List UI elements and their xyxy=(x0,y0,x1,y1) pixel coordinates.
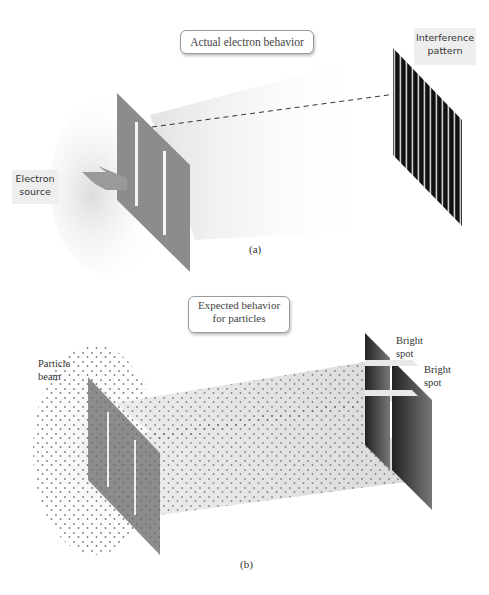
bright-spot-2-line2: spot xyxy=(424,376,451,389)
panel-b-title-line2: for particles xyxy=(189,312,289,325)
bright-spot-1-line1: Bright xyxy=(396,334,423,347)
bright-spot-label-2: Bright spot xyxy=(424,363,451,389)
bright-spot-1-line2: spot xyxy=(396,347,423,360)
panel-a-caption: (a) xyxy=(249,243,261,255)
electron-source-label-line1: Electron xyxy=(12,172,58,185)
particle-beam-label: Particle beam xyxy=(38,357,70,383)
bright-spot-band-1 xyxy=(365,360,418,366)
particle-beam-label-line1: Particle xyxy=(38,357,70,370)
panel-a-diagram xyxy=(50,48,462,275)
slit-b-2 xyxy=(134,440,136,515)
slit-1 xyxy=(135,122,138,206)
slit-2 xyxy=(163,151,166,235)
bright-spot-band-2 xyxy=(365,390,418,396)
interference-label-line1: Interference xyxy=(414,31,476,44)
interference-label-line2: pattern xyxy=(414,44,476,57)
electron-source-label: Electron source xyxy=(12,170,58,204)
interference-pattern-label: Interference pattern xyxy=(414,28,476,65)
panel-b-caption: (b) xyxy=(240,558,253,570)
particle-beam-label-line2: beam xyxy=(38,370,70,383)
bright-spot-2-line1: Bright xyxy=(424,363,451,376)
interference-screen xyxy=(393,48,462,226)
panel-b-title-line1: Expected behavior xyxy=(189,299,289,312)
electron-source-label-line2: source xyxy=(12,185,58,198)
slit-b-1 xyxy=(107,412,109,487)
panel-b-diagram xyxy=(30,333,432,560)
panel-b-title: Expected behavior for particles xyxy=(188,296,290,333)
panel-a-title: Actual electron behavior xyxy=(180,30,314,54)
bright-spot-label-1: Bright spot xyxy=(396,334,423,360)
